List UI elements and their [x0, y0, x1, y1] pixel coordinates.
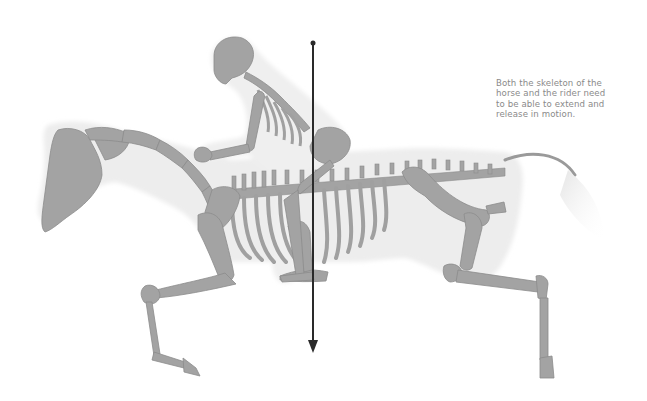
caption-text: Both the skeleton of the horse and the r… [496, 78, 636, 120]
caption-line-2: horse and the rider need [496, 88, 636, 98]
caption-line-3: to be able to extend and [496, 99, 636, 109]
caption-line-1: Both the skeleton of the [496, 78, 636, 88]
caption-line-4: release in motion. [496, 109, 636, 119]
arrow-down-icon [308, 340, 318, 353]
horse-rider-skeleton-illustration [0, 0, 647, 401]
